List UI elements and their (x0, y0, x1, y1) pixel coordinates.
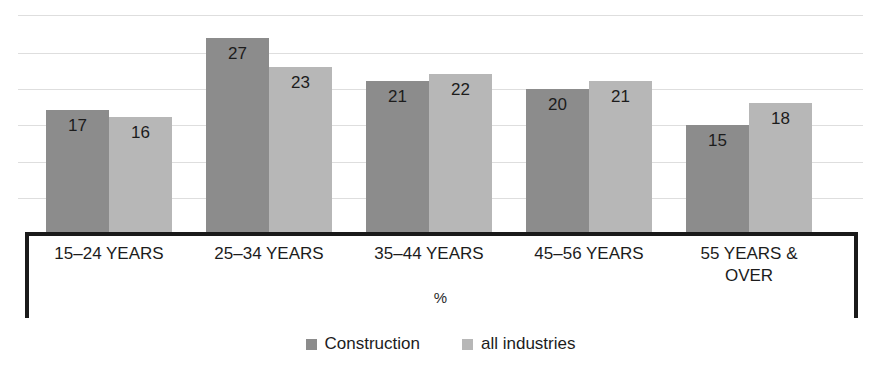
bar-value-label: 15 (686, 131, 749, 151)
light-gray-swatch (462, 339, 473, 350)
axis-unit-label: % (0, 289, 881, 306)
chart-legend: Constructionall industries (0, 334, 881, 354)
bar-value-label: 27 (206, 44, 269, 64)
legend-item-1[interactable]: all industries (462, 334, 576, 354)
chart-page: 17162723212220211518 15–24 YEARS25–34 YE… (0, 0, 881, 377)
bar-value-label: 18 (749, 109, 812, 129)
bar-all-industries-2: 22 (429, 74, 492, 233)
category-label-0: 15–24 YEARS (29, 243, 189, 265)
dark-gray-swatch (306, 339, 317, 350)
legend-item-0[interactable]: Construction (306, 334, 420, 354)
category-axis-labels: 15–24 YEARS25–34 YEARS35–44 YEARS45–56 Y… (25, 243, 858, 289)
bar-construction-1: 27 (206, 38, 269, 233)
plot-area: 17162723212220211518 (0, 10, 881, 234)
category-label-1: 25–34 YEARS (189, 243, 349, 265)
bar-value-label: 23 (269, 73, 332, 93)
bar-construction-3: 20 (526, 89, 589, 233)
bar-all-industries-4: 18 (749, 103, 812, 233)
bar-value-label: 20 (526, 95, 589, 115)
bar-value-label: 21 (589, 87, 652, 107)
bar-construction-2: 21 (366, 81, 429, 233)
bar-value-label: 22 (429, 80, 492, 100)
category-label-4: 55 YEARS &OVER (669, 243, 829, 287)
bar-all-industries-0: 16 (109, 117, 172, 233)
bar-value-label: 17 (46, 116, 109, 136)
bar-all-industries-3: 21 (589, 81, 652, 233)
bar-construction-4: 15 (686, 125, 749, 233)
category-label-3: 45–56 YEARS (509, 243, 669, 265)
bar-construction-0: 17 (46, 110, 109, 233)
legend-label: Construction (325, 334, 420, 354)
bar-value-label: 21 (366, 87, 429, 107)
clipped-title-text (0, 0, 881, 8)
bar-all-industries-1: 23 (269, 67, 332, 233)
bars-group: 17162723212220211518 (0, 10, 881, 234)
bar-value-label: 16 (109, 123, 172, 143)
legend-label: all industries (481, 334, 576, 354)
category-label-2: 35–44 YEARS (349, 243, 509, 265)
